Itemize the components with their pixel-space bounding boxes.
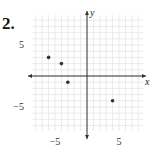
y-tick-label: 5 — [19, 39, 24, 50]
y-axis-top-arrow-icon — [85, 11, 89, 15]
y-axis-bottom-arrow-icon — [85, 135, 89, 139]
x-tick-label: 5 — [117, 136, 122, 147]
data-point — [111, 99, 115, 103]
x-axis-left-arrow-icon — [28, 74, 32, 78]
data-point — [60, 62, 64, 66]
coordinate-plane: xy−555−5 — [0, 0, 151, 149]
y-axis-label: y — [89, 7, 95, 18]
data-point — [47, 56, 51, 60]
x-axis-label: x — [144, 76, 150, 87]
y-tick-label: −5 — [13, 101, 24, 112]
data-point — [66, 80, 70, 84]
x-tick-label: −5 — [50, 136, 61, 147]
